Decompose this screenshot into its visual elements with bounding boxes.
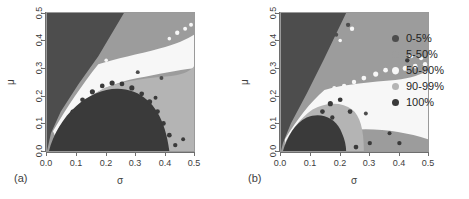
y-tick-label-a-3: 0.3 (34, 59, 44, 77)
legend-label-2: 50-90% (406, 64, 444, 76)
legend-item-2: 50-90% (392, 62, 469, 78)
x-tick-label-a-3: 0.3 (129, 158, 142, 168)
panel-label-b: (b) (248, 172, 261, 184)
x-tick-b-4 (399, 152, 400, 156)
y-tick-label-a-1: 0.1 (34, 114, 44, 132)
x-axis-title-b: σ (351, 175, 357, 186)
x-tick-label-a-4: 0.4 (159, 158, 172, 168)
y-axis-title-b: μ (239, 79, 250, 85)
x-tick-a-2 (106, 152, 107, 156)
x-tick-label-b-5: 0.5 (422, 158, 435, 168)
legend-item-0: 0-5% (392, 30, 469, 46)
x-tick-a-5 (194, 152, 195, 156)
legend-dot-icon-3 (392, 83, 399, 90)
y-axis-title-a: μ (5, 79, 16, 85)
x-tick-label-b-3: 0.3 (363, 158, 376, 168)
plot-area-a (46, 12, 195, 152)
x-tick-a-1 (76, 152, 77, 156)
x-tick-label-a-5: 0.5 (188, 158, 201, 168)
y-tick-label-a-0: 0.0 (34, 142, 44, 160)
x-tick-b-2 (340, 152, 341, 156)
legend-label-3: 90-99% (406, 80, 444, 92)
legend: 0-5% 5-50% 50-90% 90-99% 100% (392, 30, 469, 110)
y-tick-label-a-4: 0.4 (34, 31, 44, 49)
legend-dot-icon-1 (392, 51, 399, 58)
y-axis-line-b (279, 12, 280, 152)
x-tick-label-a-2: 0.2 (100, 158, 113, 168)
x-tick-b-1 (310, 152, 311, 156)
legend-dot-icon-0 (392, 35, 399, 42)
figure: 0.0 0.1 0.2 0.3 0.4 0.5 0.0 0.1 0.2 0.3 … (0, 0, 469, 199)
x-axis-line-b (280, 152, 429, 153)
legend-label-4: 100% (406, 96, 434, 108)
x-tick-a-4 (165, 152, 166, 156)
x-tick-label-b-4: 0.4 (393, 158, 406, 168)
x-tick-a-3 (135, 152, 136, 156)
legend-item-1: 5-50% (392, 46, 469, 62)
y-tick-label-b-2: 0.2 (268, 87, 278, 105)
y-tick-label-b-3: 0.3 (268, 59, 278, 77)
y-tick-label-b-4: 0.4 (268, 31, 278, 49)
x-tick-label-b-1: 0.1 (304, 158, 317, 168)
legend-dot-icon-4 (392, 99, 399, 106)
x-tick-b-0 (280, 152, 281, 156)
x-tick-label-b-2: 0.2 (334, 158, 347, 168)
x-axis-title-a: σ (117, 175, 123, 186)
y-tick-label-a-2: 0.2 (34, 87, 44, 105)
x-tick-a-0 (46, 152, 47, 156)
y-tick-label-b-0: 0.0 (268, 142, 278, 160)
y-tick-label-b-1: 0.1 (268, 114, 278, 132)
legend-label-1: 5-50% (406, 48, 438, 60)
panel-label-a: (a) (14, 172, 27, 184)
y-tick-label-b-5: 0.5 (268, 4, 278, 22)
legend-dot-icon-2 (392, 67, 399, 74)
x-tick-b-5 (428, 152, 429, 156)
legend-item-4: 100% (392, 94, 469, 110)
legend-item-3: 90-99% (392, 78, 469, 94)
y-axis-line-a (45, 12, 46, 152)
heatmap-a (47, 13, 194, 151)
x-tick-label-a-1: 0.1 (70, 158, 83, 168)
x-tick-b-3 (369, 152, 370, 156)
legend-label-0: 0-5% (406, 32, 432, 44)
y-tick-label-a-5: 0.5 (34, 4, 44, 22)
panel-a: 0.0 0.1 0.2 0.3 0.4 0.5 0.0 0.1 0.2 0.3 … (0, 0, 235, 199)
x-axis-line-a (46, 152, 195, 153)
